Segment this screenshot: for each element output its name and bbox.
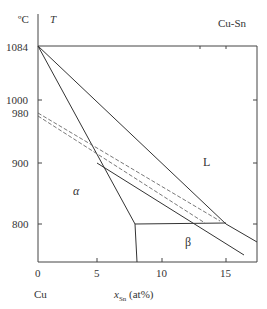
y-symbol-label: T [50,14,56,25]
alpha-solvus-line [135,224,137,262]
beta-solidus-line [97,163,244,255]
chart-title: Cu-Sn [218,18,246,29]
region-alpha-label: α [73,186,79,197]
x-tick-label-5: 5 [94,268,100,279]
x-left-element-label: Cu [34,289,47,300]
region-beta-label: β [185,237,191,248]
y-tick-label-980: 980 [12,108,29,119]
peritectic-line [135,223,226,224]
alpha-solidus-line [38,46,135,224]
x-tick-label-0: 0 [35,268,41,279]
metastable-dashed-line-2 [38,116,205,223]
y-tick-label-1084: 1084 [6,42,28,53]
y-unit-label: ºC [18,14,29,25]
y-tick-label-1000: 1000 [6,95,28,106]
x-axis-label: xSn (at%) [114,289,153,305]
x-axis-label-subscript: Sn [119,295,126,303]
liquidus-line [38,46,257,242]
x-axis-label-unit: (at%) [129,288,153,300]
y-tick-label-900: 900 [12,158,29,169]
x-tick-label-15: 15 [220,268,231,279]
phase-diagram-plot [0,0,267,309]
region-liquid-label: L [203,157,210,168]
y-tick-label-800: 800 [12,219,29,230]
x-tick-label-10: 10 [156,268,167,279]
metastable-dashed-line-1 [38,113,220,221]
